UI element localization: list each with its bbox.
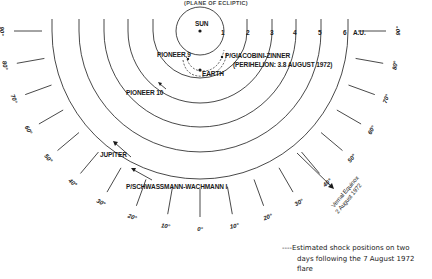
orbit-arcs bbox=[52, 7, 348, 179]
angle-tick-label: 70° bbox=[382, 93, 391, 104]
orbit-arc-5-au bbox=[79, 19, 321, 152]
angle-tick-label: 0° bbox=[197, 226, 203, 232]
angle-tick-mark bbox=[254, 179, 264, 205]
vernal-equinox-arrow-shaft bbox=[297, 153, 331, 186]
angle-tick-mark bbox=[302, 152, 320, 173]
au-label-6: 6 bbox=[343, 29, 347, 36]
angle-tick-label: 50° bbox=[43, 153, 54, 164]
angle-tick-mark bbox=[348, 85, 374, 95]
angle-tick-label: 90° bbox=[0, 26, 5, 36]
giacobini-perihelion: (PERIHELION: 3.8 AUGUST 1972) bbox=[233, 61, 332, 69]
angle-tick-mark bbox=[25, 85, 51, 95]
angle-tick-mark bbox=[279, 168, 293, 192]
orbit-arc-4-au bbox=[104, 19, 296, 127]
jupiter-label: JUPITER bbox=[100, 151, 127, 158]
angle-tick-label: 20° bbox=[126, 212, 138, 221]
angle-tick-label: 80° bbox=[391, 60, 399, 71]
angle-tick-mark bbox=[58, 133, 79, 151]
au-unit-label: A.U. bbox=[353, 29, 366, 36]
angle-tick-label: 40° bbox=[67, 177, 79, 188]
legend-line-3: flare bbox=[282, 264, 432, 275]
legend-line-1: ----Estimated shock positions on two bbox=[282, 244, 409, 252]
angle-tick-mark bbox=[337, 110, 361, 124]
legend-line-2: days following the 7 August 1972 bbox=[282, 254, 432, 265]
schwassmann-arrow-shaft bbox=[134, 170, 152, 180]
au-label-4: 4 bbox=[293, 29, 297, 36]
angle-tick-mark bbox=[227, 187, 232, 215]
sun-marker bbox=[198, 29, 201, 32]
angle-tick-label: 70° bbox=[10, 93, 19, 104]
sun-label: SUN bbox=[195, 20, 209, 27]
au-label-5: 5 bbox=[318, 29, 322, 36]
schwassmann-arrow-icon bbox=[131, 168, 136, 172]
shock-front-1 bbox=[186, 50, 224, 71]
angle-tick-label: 50° bbox=[346, 152, 357, 163]
angle-tick-label: 10° bbox=[161, 222, 172, 230]
angle-tick-mark bbox=[17, 58, 45, 63]
angle-tick-mark bbox=[107, 168, 121, 192]
angle-tick-label: 80° bbox=[1, 60, 9, 71]
angle-tick-mark bbox=[39, 110, 63, 124]
angle-tick-label: 10° bbox=[229, 222, 240, 230]
au-label-2: 2 bbox=[246, 29, 250, 36]
legend: ----Estimated shock positions on two day… bbox=[282, 243, 432, 275]
angle-tick-mark bbox=[168, 187, 173, 215]
giacobini-label: P/GIACOBINI-ZINNER bbox=[225, 52, 290, 59]
angle-tick-label: 30° bbox=[96, 198, 107, 208]
angle-tick-label: 20° bbox=[261, 212, 273, 221]
angle-tick-label: 90° bbox=[395, 26, 401, 36]
heliocentric-diagram: 90°80°70°60°50°40°30°20°10°0°10°20°30°40… bbox=[0, 0, 432, 279]
schwassmann-label: P/SCHWASSMANN-WACHMANN I bbox=[126, 183, 228, 190]
angle-tick-label: 30° bbox=[294, 197, 305, 207]
angle-tick-label: 60° bbox=[24, 125, 34, 136]
angle-tick-mark bbox=[321, 133, 342, 151]
angle-tick-mark bbox=[80, 152, 98, 173]
au-label-3: 3 bbox=[270, 29, 274, 36]
pioneer10-label: PIONEER 10 bbox=[126, 89, 164, 96]
angle-tick-mark bbox=[356, 58, 384, 63]
au-label-1: 1 bbox=[221, 29, 225, 36]
angle-tick-label: 60° bbox=[367, 124, 377, 135]
